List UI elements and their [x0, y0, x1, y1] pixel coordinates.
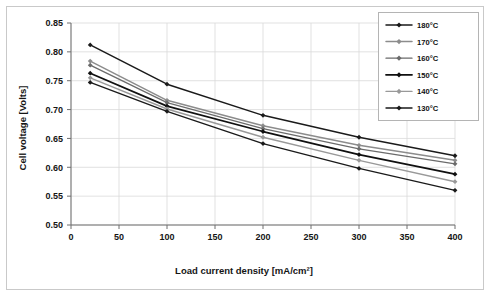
legend-label: 140°C: [417, 87, 439, 96]
legend-label: 180°C: [417, 21, 439, 30]
cell-voltage-line-chart: 0.500.550.600.650.700.750.800.8505010015…: [0, 0, 490, 296]
legend-label: 160°C: [417, 54, 439, 63]
x-tick-label: 50: [114, 232, 124, 242]
y-tick-label: 0.70: [45, 105, 63, 115]
x-tick-label: 200: [255, 232, 270, 242]
y-tick-label: 0.55: [45, 191, 63, 201]
x-tick-label: 100: [159, 232, 174, 242]
y-tick-label: 0.85: [45, 18, 63, 28]
y-tick-label: 0.80: [45, 47, 63, 57]
legend-label: 130°C: [417, 104, 439, 113]
x-axis-title: Load current density [mA/cm²]: [175, 265, 313, 276]
legend-label: 150°C: [417, 71, 439, 80]
y-tick-label: 0.60: [45, 163, 63, 173]
x-tick-label: 350: [399, 232, 414, 242]
legend[interactable]: 180°C170°C160°C150°C140°C130°C: [379, 13, 479, 121]
y-tick-label: 0.75: [45, 76, 63, 86]
legend-label: 170°C: [417, 38, 439, 47]
y-axis-title: Cell voltage [Volts]: [17, 86, 28, 171]
x-tick-label: 250: [303, 232, 318, 242]
x-tick-label: 300: [351, 232, 366, 242]
x-tick-label: 150: [207, 232, 222, 242]
x-tick-label: 0: [68, 232, 73, 242]
y-tick-label: 0.50: [45, 220, 63, 230]
x-tick-label: 400: [447, 232, 462, 242]
y-tick-label: 0.65: [45, 134, 63, 144]
chart-figure: 0.500.550.600.650.700.750.800.8505010015…: [0, 0, 490, 296]
